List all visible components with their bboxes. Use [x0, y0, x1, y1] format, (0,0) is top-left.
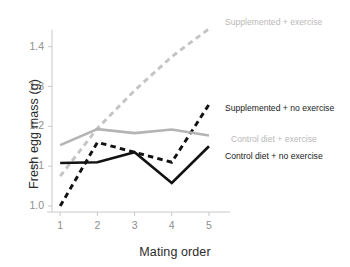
series-label-2: Control diet + exercise: [231, 134, 317, 144]
x-axis-title: Mating order: [0, 245, 350, 259]
chart-container: 1.01.11.21.31.412345 Supplemented + exer…: [0, 0, 350, 267]
x-tick-label: 3: [125, 219, 145, 231]
y-axis-title: Fresh egg mass (g): [27, 54, 41, 214]
series-label-0: Supplemented + exercise: [225, 17, 322, 27]
series-lines: [60, 29, 209, 206]
series-label-3: Control diet + no exercise: [225, 151, 323, 161]
x-tick-label: 4: [162, 219, 182, 231]
series-line-1: [60, 104, 209, 206]
axes: [47, 30, 230, 216]
x-tick-label: 2: [87, 219, 107, 231]
x-tick-label: 1: [50, 219, 70, 231]
y-tick-label: 1.4: [18, 40, 44, 52]
series-label-1: Supplemented + no exercise: [225, 103, 334, 113]
series-line-3: [60, 146, 209, 183]
series-line-0: [60, 29, 209, 176]
x-tick-label: 5: [199, 219, 219, 231]
